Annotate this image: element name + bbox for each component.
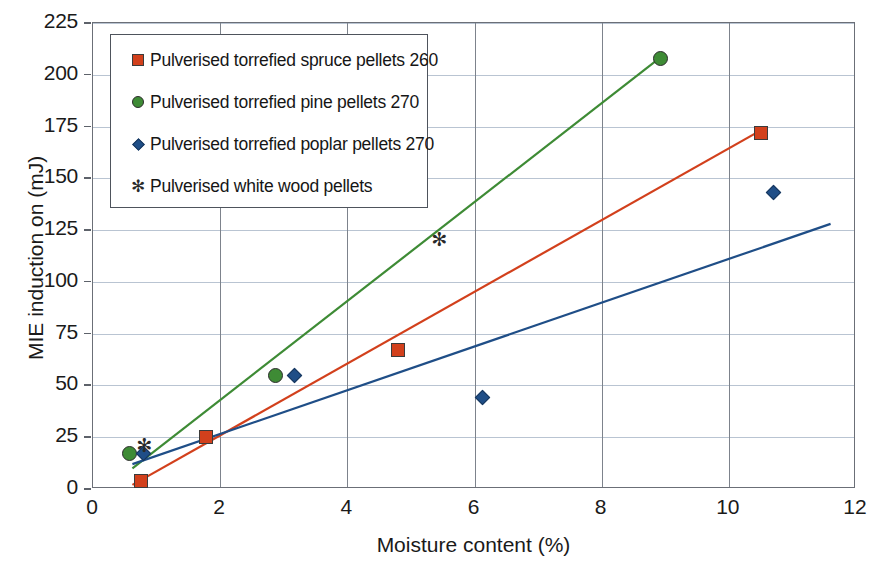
x-tick-label: 10 bbox=[698, 495, 758, 519]
chart-legend: Pulverised torrefied spruce pellets 260P… bbox=[110, 34, 428, 208]
scatter-chart: MIE induction on (mJ) 025507510012515017… bbox=[0, 0, 879, 561]
y-tick-mark bbox=[84, 333, 91, 335]
x-tick-label: 6 bbox=[444, 495, 504, 519]
y-tick-label: 25 bbox=[55, 423, 78, 447]
circle-marker-icon bbox=[268, 368, 283, 383]
x-tick-label: 4 bbox=[316, 495, 376, 519]
swatch-glyph: ✻ bbox=[131, 178, 145, 195]
y-tick-mark bbox=[84, 436, 91, 438]
y-tick-label: 225 bbox=[44, 9, 78, 33]
trendline bbox=[132, 224, 830, 464]
square-marker-icon bbox=[391, 343, 405, 357]
legend-item[interactable]: ✻Pulverised white wood pellets bbox=[129, 175, 372, 197]
circle-marker-icon bbox=[129, 96, 147, 108]
y-tick-mark bbox=[84, 281, 91, 283]
legend-item[interactable]: Pulverised torrefied poplar pellets 270 bbox=[129, 133, 434, 155]
square-marker-icon bbox=[754, 126, 768, 140]
square-marker-icon bbox=[199, 430, 213, 444]
y-tick-label: 175 bbox=[44, 113, 78, 137]
x-tick-label: 12 bbox=[825, 495, 879, 519]
y-tick-label: 100 bbox=[44, 268, 78, 292]
y-tick-mark bbox=[84, 74, 91, 76]
swatch-glyph bbox=[132, 54, 144, 66]
swatch-glyph bbox=[132, 138, 145, 151]
legend-item-label: Pulverised torrefied spruce pellets 260 bbox=[150, 50, 438, 71]
x-tick-label: 2 bbox=[189, 495, 249, 519]
y-tick-mark bbox=[84, 126, 91, 128]
swatch-glyph bbox=[132, 96, 144, 108]
y-tick-mark bbox=[84, 229, 91, 231]
y-tick-mark bbox=[84, 177, 91, 179]
circle-marker-icon bbox=[653, 51, 668, 66]
y-tick-mark bbox=[84, 488, 91, 490]
square-marker-icon bbox=[134, 474, 148, 488]
legend-item-label: Pulverised white wood pellets bbox=[150, 176, 372, 197]
x-tick-label: 8 bbox=[571, 495, 631, 519]
y-tick-mark bbox=[84, 384, 91, 386]
legend-item-label: Pulverised torrefied poplar pellets 270 bbox=[150, 134, 434, 155]
x-axis-title: Moisture content (%) bbox=[92, 533, 855, 557]
legend-item[interactable]: Pulverised torrefied pine pellets 270 bbox=[129, 91, 419, 113]
y-tick-label: 150 bbox=[44, 164, 78, 188]
y-tick-label: 125 bbox=[44, 216, 78, 240]
legend-item[interactable]: Pulverised torrefied spruce pellets 260 bbox=[129, 49, 438, 71]
diamond-marker-icon bbox=[129, 140, 147, 149]
square-marker-icon bbox=[129, 54, 147, 66]
star-marker-icon: ✻ bbox=[129, 178, 147, 195]
y-tick-label: 75 bbox=[55, 320, 78, 344]
legend-item-label: Pulverised torrefied pine pellets 270 bbox=[150, 92, 419, 113]
x-tick-label: 0 bbox=[62, 495, 122, 519]
y-tick-mark bbox=[84, 22, 91, 24]
y-tick-label: 200 bbox=[44, 61, 78, 85]
y-tick-label: 50 bbox=[55, 371, 78, 395]
